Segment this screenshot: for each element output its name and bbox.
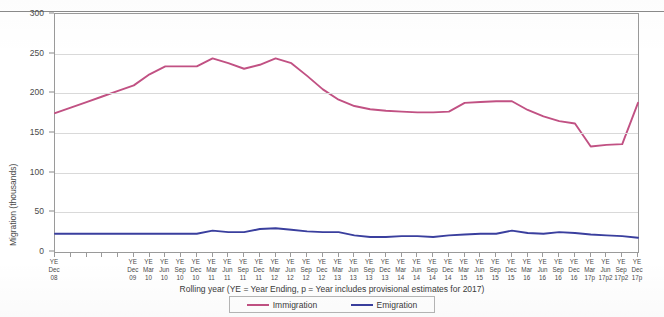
x-axis-tick (385, 253, 386, 257)
x-tick-line3: 17p2 (614, 274, 628, 281)
x-tick-line1: YE (255, 258, 263, 265)
x-tick-line1: YE (538, 258, 546, 265)
x-tick-line1: YE (586, 258, 594, 265)
x-axis-tick-label: YEMar11 (206, 258, 217, 283)
x-tick-line1: YE (270, 258, 278, 265)
x-axis-title: Rolling year (YE = Year Ending, p = Year… (0, 284, 664, 294)
x-axis-tick-label: YEDec14 (442, 258, 453, 283)
x-tick-line3: 17p2 (598, 274, 612, 281)
x-tick-line2: Sep (237, 266, 248, 273)
x-tick-line3: 16 (555, 274, 562, 281)
x-tick-line1: YE (318, 258, 326, 265)
x-axis-tick (290, 253, 291, 257)
x-tick-line3: 17p (632, 274, 643, 281)
y-axis-tick-label: 200 (30, 87, 44, 97)
x-axis-tick (322, 253, 323, 257)
x-axis-tick-label: YEJun15 (474, 258, 484, 283)
x-tick-line3: 11 (208, 274, 215, 281)
x-axis-tick-label: YEJun11 (222, 258, 232, 283)
x-tick-line1: YE (428, 258, 436, 265)
x-tick-line2: Mar (584, 266, 595, 273)
x-tick-line3: 14 (397, 274, 404, 281)
x-axis-tick-label: YEMar17p (584, 258, 595, 283)
x-tick-line2: Dec (631, 266, 642, 273)
x-tick-line3: 15 (492, 274, 499, 281)
x-tick-line3: 13 (366, 274, 373, 281)
x-tick-line1: YE (223, 258, 231, 265)
x-axis-tick (54, 253, 55, 257)
y-axis-tick-label: 300 (30, 8, 44, 18)
x-tick-line1: YE (50, 258, 58, 265)
x-axis-tick (243, 253, 244, 257)
x-tick-line2: Jun (600, 266, 610, 273)
x-axis-tick-label: YEDec12 (316, 258, 327, 283)
y-axis-title: Migration (thousands) (8, 96, 18, 246)
top-divider-rule (0, 11, 664, 12)
x-axis-tick (227, 253, 228, 257)
x-tick-line3: 10 (177, 274, 184, 281)
x-tick-line1: YE (475, 258, 483, 265)
x-axis-tick (306, 253, 307, 257)
x-tick-line3: 15 (476, 274, 483, 281)
series-line-emigration (55, 228, 638, 238)
x-axis-tick (590, 253, 591, 257)
x-tick-line1: YE (381, 258, 389, 265)
x-tick-line1: YE (570, 258, 578, 265)
x-axis-tick-label: YEMar12 (269, 258, 280, 283)
x-tick-line3: 17p (584, 274, 595, 281)
x-tick-line3: 10 (192, 274, 199, 281)
x-tick-line2: Sep (490, 266, 501, 273)
x-tick-line2: Jun (537, 266, 547, 273)
x-axis-tick-label: YEJun13 (348, 258, 358, 283)
x-axis-tick (511, 253, 512, 257)
plot-area (54, 13, 639, 253)
cropped-chart-title (0, 0, 664, 10)
legend-label: Immigration (273, 300, 317, 310)
x-axis-tick (149, 253, 150, 257)
chart-legend: ImmigrationEmigration (229, 296, 435, 313)
x-axis-tick (133, 253, 134, 257)
x-tick-line2: Mar (206, 266, 217, 273)
y-axis-tick-label: 0 (39, 246, 44, 256)
x-axis-tick (180, 253, 181, 257)
x-tick-line1: YE (365, 258, 373, 265)
x-tick-line3: 14 (429, 274, 436, 281)
x-tick-line2: Jun (285, 266, 295, 273)
x-tick-line2: Sep (427, 266, 438, 273)
x-axis-tick (196, 253, 197, 257)
x-axis-tick (432, 253, 433, 257)
x-tick-line1: YE (412, 258, 420, 265)
x-axis-tick-label: YESep14 (427, 258, 438, 283)
migration-line-chart: 050100150200250300 Migration (thousands)… (0, 0, 664, 317)
x-axis-tick-label: YEMar10 (143, 258, 154, 283)
legend-item-immigration[interactable]: Immigration (247, 300, 317, 310)
x-tick-line1: YE (396, 258, 404, 265)
y-axis-tick-label: 50 (35, 206, 44, 216)
x-tick-line3: 13 (350, 274, 357, 281)
x-axis-tick (637, 253, 638, 257)
x-tick-line3: 13 (334, 274, 341, 281)
legend-item-emigration[interactable]: Emigration (351, 300, 418, 310)
x-axis-tick-label: YEJun10 (159, 258, 169, 283)
x-tick-line1: YE (192, 258, 200, 265)
grid-line (55, 173, 638, 174)
x-tick-line1: YE (239, 258, 247, 265)
x-axis-tick-label: YEMar14 (395, 258, 406, 283)
x-axis-tick (621, 253, 622, 257)
x-tick-line2: Dec (442, 266, 453, 273)
x-tick-line1: YE (601, 258, 609, 265)
x-axis-tick-label: YEJun16 (537, 258, 547, 283)
x-tick-line2: Sep (364, 266, 375, 273)
x-axis-tick-label: YEDec10 (190, 258, 201, 283)
x-tick-line2: Sep (553, 266, 564, 273)
x-tick-line2: Dec (253, 266, 264, 273)
x-tick-line2: Sep (616, 266, 627, 273)
legend-swatch-icon (351, 304, 373, 306)
x-tick-line1: YE (286, 258, 294, 265)
x-tick-line3: 12 (271, 274, 278, 281)
x-tick-line2: Mar (332, 266, 343, 273)
x-axis-tick-label: YEMar16 (521, 258, 532, 283)
x-axis-tick (70, 253, 71, 257)
x-tick-line2: Dec (505, 266, 516, 273)
x-tick-line2: Dec (568, 266, 579, 273)
